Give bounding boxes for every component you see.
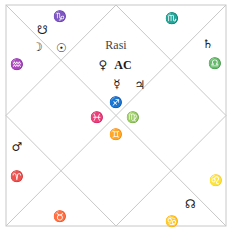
jupiter-icon: ♃ [135, 79, 146, 91]
scorpio-icon: ♏ [165, 13, 179, 25]
moon-icon: ☽ [32, 41, 43, 53]
rasi-chart [0, 0, 231, 245]
venus-icon: ♀ [99, 59, 108, 71]
leo-icon: ♌ [209, 175, 223, 187]
mercury-icon: ☿ [113, 78, 120, 90]
capricorn-icon: ♑ [53, 11, 67, 23]
gemini-icon: ♊ [109, 129, 123, 141]
saturn-icon: ♄ [203, 38, 214, 50]
aquarius-icon: ♒ [10, 59, 24, 71]
rasi-title: Rasi [105, 39, 126, 51]
ketu-icon: ☋ [37, 24, 48, 36]
ascendant-icon: AC [114, 59, 131, 71]
taurus-icon: ♉ [53, 211, 67, 223]
mars-icon: ♂ [12, 141, 23, 153]
sagittarius-icon: ♐ [109, 97, 123, 109]
sun-icon: ☉ [56, 42, 67, 54]
libra-icon: ♎ [208, 58, 222, 70]
aries-icon: ♈ [10, 171, 24, 183]
pisces-icon: ♓ [90, 112, 104, 124]
virgo-icon: ♍ [126, 112, 140, 124]
rahu-icon: ☊ [185, 198, 196, 210]
cancer-icon: ♋ [165, 216, 179, 228]
